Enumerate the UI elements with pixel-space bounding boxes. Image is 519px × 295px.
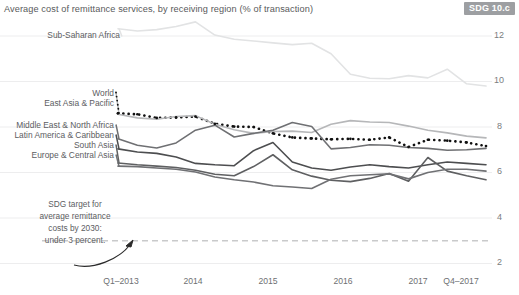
series-label-south-asia: South Asia <box>0 140 114 150</box>
world-marker <box>349 137 352 140</box>
series-label-middle-east-north-africa: Middle East & North Africa <box>0 120 114 130</box>
annotation-line-3: costs by 2030: <box>10 222 140 234</box>
world-marker <box>233 125 236 128</box>
ytick-8: 8 <box>497 121 502 131</box>
xtick-2014: 2014 <box>168 276 218 286</box>
ytick-10: 10 <box>494 75 504 85</box>
series-line-east-asia-pacific <box>118 114 486 138</box>
world-marker <box>446 139 449 142</box>
xtick-q4-2017: Q4–2017 <box>428 276 494 286</box>
sdg-target-annotation: SDG target for average remittance costs … <box>10 198 140 246</box>
annotation-line-4: under 3 percent. <box>10 234 140 246</box>
world-marker <box>368 138 371 141</box>
xtick-2015: 2015 <box>243 276 293 286</box>
world-marker <box>310 137 313 140</box>
world-marker <box>252 126 255 129</box>
world-marker <box>465 141 468 144</box>
series-label-sub-saharan-africa: Sub-Saharan Africa <box>8 30 120 40</box>
series-label-latin-america-caribbean: Latin America & Caribbean <box>0 130 114 140</box>
ytick-6: 6 <box>497 166 502 176</box>
chart-figure: Average cost of remittance services, by … <box>0 0 519 295</box>
ytick-2: 2 <box>497 257 502 267</box>
world-marker <box>291 136 294 139</box>
annotation-line-2: average remittance <box>10 210 140 222</box>
world-marker <box>388 136 391 139</box>
ytick-12: 12 <box>494 30 504 40</box>
series-line-europe-central-asia <box>118 166 486 188</box>
world-marker <box>155 117 158 120</box>
series-label-world: World <box>8 88 114 98</box>
series-line-sub-saharan-africa <box>118 22 486 86</box>
world-marker <box>175 116 178 119</box>
world-marker <box>272 132 275 135</box>
world-marker <box>330 138 333 141</box>
world-marker <box>213 122 216 125</box>
series-label-europe-central-asia: Europe & Central Asia <box>0 150 114 160</box>
world-marker <box>407 146 410 149</box>
world-marker <box>427 138 430 141</box>
world-marker <box>136 113 139 116</box>
xtick-q1-2013: Q1–2013 <box>88 276 154 286</box>
annotation-line-1: SDG target for <box>10 198 140 210</box>
xtick-2016: 2016 <box>318 276 368 286</box>
series-label-east-asia-pacific: East Asia & Pacific <box>8 98 114 108</box>
series-line-latin-america-caribbean <box>118 142 486 170</box>
world-marker <box>194 115 197 118</box>
series-line-south-asia <box>118 155 486 182</box>
world-marker <box>485 145 488 148</box>
ytick-4: 4 <box>497 212 502 222</box>
